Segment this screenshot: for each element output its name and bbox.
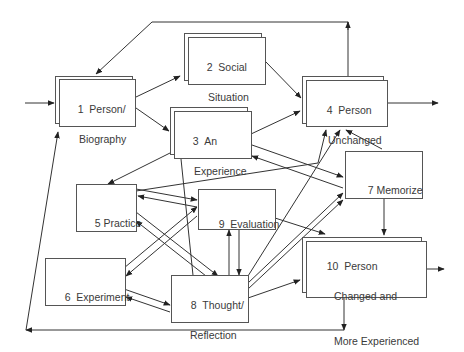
node-1-line1: Person/ bbox=[89, 103, 125, 115]
node-1-line2: Biography bbox=[66, 132, 126, 147]
node-10-line1: Person bbox=[344, 260, 377, 272]
node-7-line1: Memorize bbox=[376, 184, 422, 196]
node-6-number: 6 bbox=[65, 291, 71, 303]
node-8-line2: Reflection bbox=[179, 328, 244, 343]
node-7-memorize[interactable]: 7 Memorize bbox=[345, 151, 423, 199]
node-2-social-situation[interactable]: 2 Social Situation bbox=[188, 37, 266, 85]
node-6-experiment[interactable]: 6 Experiment bbox=[45, 258, 126, 306]
node-2-number: 2 bbox=[207, 61, 213, 73]
node-9-number: 9 bbox=[219, 218, 225, 230]
node-10-line3: More Experienced bbox=[315, 334, 419, 349]
node-3-number: 3 bbox=[193, 135, 199, 147]
node-4-person-unchanged[interactable]: 4 Person Unchanged bbox=[306, 80, 388, 127]
node-5-line1: Practice bbox=[103, 217, 141, 229]
node-3-an-experience[interactable]: 3 An Experience bbox=[174, 111, 252, 159]
node-8-number: 8 bbox=[191, 299, 197, 311]
node-1-number: 1 bbox=[78, 103, 84, 115]
node-10-number: 10 bbox=[327, 260, 339, 272]
node-6-line1: Experiment bbox=[76, 291, 129, 303]
node-9-line1: Evaluation bbox=[230, 218, 279, 230]
node-4-line1: Person bbox=[338, 104, 371, 116]
node-9-evaluation[interactable]: 9 Evaluation bbox=[198, 189, 276, 230]
node-10-line2: Changed and bbox=[315, 289, 419, 304]
node-2-line2: Situation bbox=[195, 90, 249, 105]
node-5-number: 5 bbox=[95, 217, 101, 229]
node-1-person-biography[interactable]: 1 Person/ Biography bbox=[59, 79, 136, 127]
node-5-practice[interactable]: 5 Practice bbox=[76, 184, 137, 232]
node-8-line1: Thought/ bbox=[202, 299, 243, 311]
node-2-line1: Social bbox=[218, 61, 247, 73]
node-7-number: 7 bbox=[368, 184, 374, 196]
node-3-line2: Experience bbox=[181, 164, 247, 179]
node-10-person-changed[interactable]: 10 Person Changed and More Experienced bbox=[306, 241, 427, 298]
node-4-number: 4 bbox=[327, 104, 333, 116]
node-3-line1: An bbox=[204, 135, 217, 147]
node-4-line2: Unchanged bbox=[315, 133, 382, 148]
node-8-thought-reflection[interactable]: 8 Thought/ Reflection bbox=[171, 275, 249, 323]
